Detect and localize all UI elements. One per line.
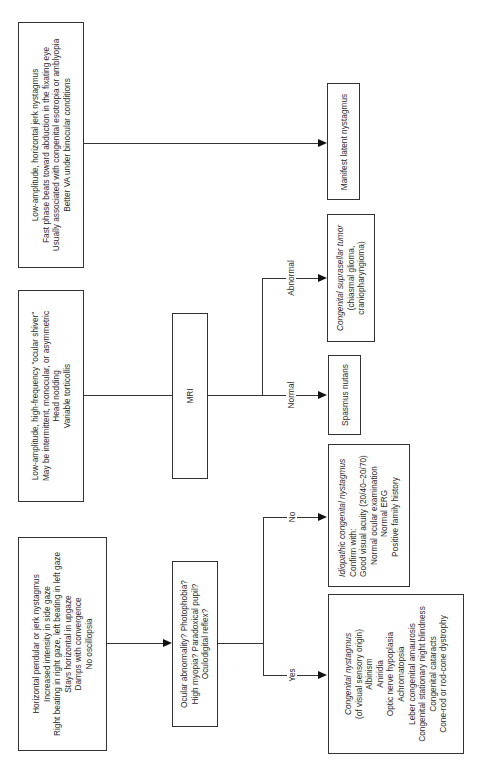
arrow-head-icon bbox=[318, 274, 327, 282]
finding-line: No oscillopsia bbox=[84, 552, 95, 736]
outcome-line: Congenital stationary night blindness bbox=[417, 606, 428, 742]
outcome-line: Aniridia bbox=[375, 606, 386, 742]
branch-label-no: No bbox=[287, 509, 297, 526]
outcome-line: Albinism bbox=[364, 606, 375, 742]
connector-line bbox=[107, 643, 163, 644]
branch-line bbox=[262, 278, 263, 395]
outcome-line: (chiasmal glioma, bbox=[346, 225, 357, 331]
outcome-line: Good visual acuity (20/40–20/70) bbox=[358, 455, 369, 577]
idiopathic-box: Idiopathic congenital nystagmus Confirm … bbox=[328, 444, 410, 587]
finding-line: Fast phase beats toward abduction in the… bbox=[40, 39, 51, 252]
outcome-line: Positive family history bbox=[390, 455, 401, 577]
mri-box: MRI bbox=[172, 313, 208, 479]
finding-line: May be intermittent, monocular, or asymm… bbox=[40, 311, 51, 481]
arrow-head-icon bbox=[318, 139, 327, 147]
outcome-title: Congenital suprasellar tumor bbox=[335, 225, 346, 331]
outcome-line: Congenital cataracts bbox=[428, 606, 439, 742]
branch-label-normal: Normal bbox=[286, 379, 296, 412]
spasmus-findings-box: Low-amplitude, high-frequency "ocular sh… bbox=[18, 290, 84, 502]
question-box: Ocular abnormality? Photophobia? High my… bbox=[172, 561, 218, 727]
connector-line bbox=[218, 643, 263, 644]
outcome-line: Normal ERG bbox=[380, 455, 391, 577]
arrow-head-icon bbox=[163, 639, 172, 647]
suprasellar-tumor-box: Congenital suprasellar tumor (chiasmal g… bbox=[327, 214, 375, 342]
congenital-findings-box: Horizontal pendular or jerk nystagmus In… bbox=[18, 537, 107, 751]
finding-line: Horizontal pendular or jerk nystagmus bbox=[31, 552, 42, 736]
connector-line bbox=[208, 395, 318, 396]
outcome-line: craniopharyngioma) bbox=[356, 225, 367, 331]
test-label: MRI bbox=[185, 388, 196, 403]
branch-label-yes: Yes bbox=[287, 665, 297, 685]
outcome-line: Normal ocular examination bbox=[369, 455, 380, 577]
outcome-line: Confirm with: bbox=[348, 455, 359, 577]
finding-line: Low-amplitude, high-frequency "ocular sh… bbox=[30, 311, 41, 481]
finding-line: Stays horizontal in upgaze bbox=[63, 552, 74, 736]
question-line: Ocular abnormality? Photophobia? bbox=[179, 580, 190, 708]
outcome-line: Cone-rod or rod-cone dystrophy bbox=[438, 606, 449, 742]
outcome-title: Spasmus nutans bbox=[339, 364, 350, 426]
outcome-title: Congenital nystagmus bbox=[343, 606, 354, 742]
connector-line bbox=[84, 395, 172, 396]
finding-line: Head nodding bbox=[51, 311, 62, 481]
outcome-title: Manifest latent nystagmus bbox=[338, 93, 349, 189]
finding-line: Low-amplitude, horizontal jerk nystagmus bbox=[30, 39, 41, 252]
outcome-line: (of visual sensory origin) bbox=[354, 606, 365, 742]
arrow-head-icon bbox=[318, 671, 327, 679]
finding-line: Variable torticollis bbox=[62, 311, 73, 481]
spasmus-nutans-box: Spasmus nutans bbox=[328, 355, 361, 435]
finding-line: Right beating in right gaze, left beatin… bbox=[52, 552, 63, 736]
finding-line: Usually associated with congenital esotr… bbox=[51, 39, 62, 252]
finding-line: Better VA under binocular conditions bbox=[62, 39, 73, 252]
finding-line: Increased intensity in side gaze bbox=[41, 552, 52, 736]
question-line: High myopia? Paradoxical pupil? bbox=[190, 580, 201, 708]
outcome-title: Idiopathic congenital nystagmus bbox=[337, 455, 348, 577]
connector-line bbox=[84, 143, 318, 144]
outcome-line: Optic nerve hypoplasia bbox=[385, 606, 396, 742]
latent-findings-box: Low-amplitude, horizontal jerk nystagmus… bbox=[18, 22, 84, 268]
branch-line bbox=[263, 517, 264, 675]
question-line: Oculodigital reflex? bbox=[200, 580, 211, 708]
branch-label-abnormal: Abnormal bbox=[286, 257, 296, 299]
finding-line: Damps with convergence bbox=[73, 552, 84, 736]
arrow-head-icon bbox=[318, 513, 327, 521]
arrow-head-icon bbox=[318, 391, 327, 399]
manifest-latent-box: Manifest latent nystagmus bbox=[327, 83, 360, 200]
outcome-line: Leber congenital amaurosis bbox=[407, 606, 418, 742]
outcome-line: Achromatopsia bbox=[396, 606, 407, 742]
congenital-sensory-box: Congenital nystagmus (of visual sensory … bbox=[328, 594, 464, 754]
